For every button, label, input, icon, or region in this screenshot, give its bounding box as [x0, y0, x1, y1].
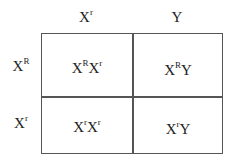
column-header-2: Y	[172, 10, 183, 25]
row-header-1-base: X	[13, 58, 24, 74]
column-header-2-base: Y	[172, 9, 183, 25]
row-header-2: Xr	[14, 116, 28, 131]
cell-r2-c1: XrXr	[73, 120, 101, 135]
row-header-2-base: X	[14, 115, 25, 131]
cell-r2-c2-allele1-sup: r	[177, 119, 180, 129]
cell-r1-c1-allele1-base: X	[72, 60, 83, 76]
cell-r2-c1-allele2-sup: r	[98, 117, 101, 127]
row-header-1: XR	[13, 59, 30, 74]
cell-r1-c1: XRXr	[72, 61, 103, 76]
cell-r1-c2-allele1-sup: R	[175, 60, 181, 70]
cell-r1-c1-allele1-sup: R	[82, 58, 88, 68]
cell-r2-c2-allele2-base: Y	[180, 121, 191, 137]
cell-r1-c2-allele2-base: Y	[181, 62, 192, 78]
row-header-2-sup: r	[25, 113, 28, 123]
cell-r1-c1-allele2-sup: r	[99, 58, 102, 68]
cell-r1-c2: XRY	[164, 63, 192, 78]
punnett-grid	[41, 33, 223, 154]
cell-r1-c2-allele1-base: X	[164, 62, 175, 78]
cell-r2-c1-allele2-base: X	[87, 119, 98, 135]
cell-r2-c2-allele1-base: X	[166, 121, 177, 137]
grid-horizontal-divider	[42, 96, 222, 98]
grid-vertical-divider	[132, 34, 134, 153]
column-header-1-sup: r	[90, 7, 93, 17]
cell-r2-c1-allele1-base: X	[73, 119, 84, 135]
cell-r2-c1-allele1-sup: r	[84, 117, 87, 127]
column-header-1: Xr	[79, 10, 93, 25]
cell-r1-c1-allele2-base: X	[89, 60, 100, 76]
cell-r2-c2: XrY	[166, 122, 191, 137]
row-header-1-sup: R	[23, 56, 29, 66]
column-header-1-base: X	[79, 9, 90, 25]
